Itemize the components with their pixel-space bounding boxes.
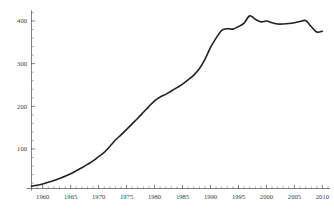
x-axis-major-ticks (43, 185, 323, 189)
x-axis-tick-label: 1970 (92, 193, 106, 200)
x-axis-tick-label: 2000 (260, 193, 274, 200)
x-axis-tick-label: 1960 (36, 193, 50, 200)
x-axis-tick-label: 1995 (232, 193, 246, 200)
x-axis-tick-label: 2005 (288, 193, 302, 200)
y-axis-major-ticks (32, 21, 36, 149)
y-axis-tick-label: 100 (17, 145, 28, 152)
data-series-line (32, 16, 323, 186)
y-axis-tick-label: 300 (17, 60, 28, 67)
x-axis-tick-label: 1980 (148, 193, 162, 200)
x-axis-tick-label: 1965 (64, 193, 78, 200)
x-axis-tick-labels: 1960196519701975198019851990199520002005… (36, 193, 330, 200)
x-axis-tick-label: 1975 (120, 193, 134, 200)
x-axis-tick-label: 2010 (316, 193, 330, 200)
chart-figure: 1960196519701975198019851990199520002005… (0, 0, 334, 209)
y-axis-tick-label: 400 (17, 17, 28, 24)
line-chart-plot: 1960196519701975198019851990199520002005… (0, 0, 334, 209)
x-axis-tick-label: 1990 (204, 193, 218, 200)
y-axis-tick-labels: 100200300400 (17, 17, 28, 152)
x-axis-tick-label: 1985 (176, 193, 190, 200)
y-axis-tick-label: 200 (17, 103, 28, 110)
